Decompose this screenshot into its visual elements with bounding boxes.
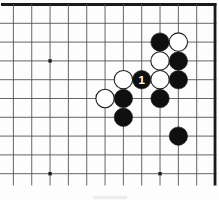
white-stone [114, 71, 132, 89]
white-stone [151, 71, 169, 89]
star-point [158, 172, 161, 175]
star-point [48, 59, 51, 62]
black-stone [169, 127, 187, 145]
black-stone [169, 52, 187, 70]
black-stone [114, 108, 132, 126]
white-stone [169, 33, 187, 51]
black-stone [114, 89, 132, 107]
white-stone [96, 89, 114, 107]
white-stone [151, 52, 169, 70]
go-board: 1 [0, 0, 219, 200]
move-number-label: 1 [139, 74, 146, 86]
black-stone [151, 33, 169, 51]
black-stone [169, 71, 187, 89]
go-diagram-figure: 1 [0, 0, 219, 200]
black-stone [151, 89, 169, 107]
caption-remnant [93, 196, 127, 199]
star-point [48, 172, 51, 175]
